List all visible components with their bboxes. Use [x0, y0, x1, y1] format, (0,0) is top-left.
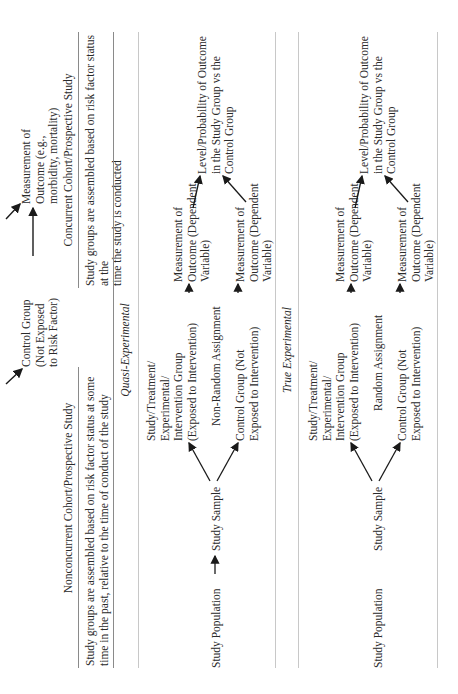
arrows-layer [0, 0, 458, 694]
arrow-icon [351, 176, 408, 481]
arrow-icon [189, 176, 246, 574]
rotated-document-page: Control Group (Not Exposed to Risk Facto… [0, 0, 458, 694]
arrow-icon [6, 204, 33, 384]
